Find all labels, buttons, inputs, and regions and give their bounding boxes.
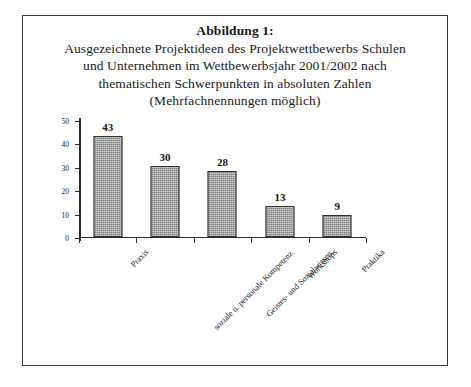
figure-frame: Abbildung 1: Ausgezeichnete Projektideen… — [22, 15, 448, 366]
y-tick-label-50: 50 — [62, 117, 70, 126]
x-tick-5 — [366, 238, 367, 243]
y-tick-label-30: 30 — [62, 163, 70, 172]
bar-value-label: 13 — [274, 191, 285, 203]
x-tick-4 — [309, 238, 310, 243]
bar-slot: 9 — [309, 120, 366, 237]
bar-value-label: 9 — [335, 200, 341, 212]
bar[interactable] — [323, 215, 352, 236]
x-tick-2 — [194, 238, 195, 243]
x-tick-1 — [136, 238, 137, 243]
y-tick-label-0: 0 — [65, 234, 69, 243]
bar-value-label: 30 — [160, 151, 171, 163]
bar-slot: 30 — [136, 120, 193, 237]
bar-slot: 13 — [251, 120, 308, 237]
bar[interactable] — [208, 171, 237, 237]
x-axis-line — [79, 237, 366, 239]
x-tick-3 — [251, 238, 252, 243]
x-tick-0 — [79, 238, 80, 243]
bar[interactable] — [151, 166, 180, 236]
plot-area: 01020304050 433028139 Praxissoziale u. p… — [79, 121, 366, 238]
y-tick-label-40: 40 — [62, 140, 70, 149]
category-label: Praktika — [360, 247, 387, 274]
category-label: soziale u. personale Kompetenz. — [211, 247, 296, 332]
bar-slot: 43 — [79, 120, 136, 237]
bar-value-label: 43 — [102, 121, 113, 133]
category-label: Praxis — [128, 247, 150, 269]
bar-value-label: 28 — [217, 156, 228, 168]
y-tick-label-10: 10 — [62, 210, 70, 219]
bar[interactable] — [265, 206, 294, 236]
bar[interactable] — [93, 136, 122, 237]
bar-slot: 28 — [194, 120, 251, 237]
y-tick-label-20: 20 — [62, 187, 70, 196]
bar-chart: 01020304050 433028139 Praxissoziale u. p… — [23, 16, 449, 367]
